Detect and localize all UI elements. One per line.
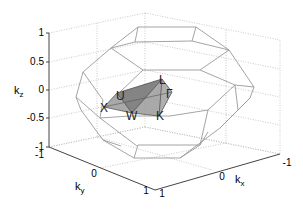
x-tick: 1	[159, 188, 165, 199]
x-tick: 0	[219, 171, 225, 182]
z-axis-label: kz	[14, 84, 24, 99]
point-label-U: U	[116, 89, 125, 103]
z-tick: 0.5	[30, 56, 44, 67]
point-label-L: L	[159, 73, 166, 87]
y-tick: 0	[91, 168, 97, 179]
brillouin-zone-plot: 1 0.5 0 -0.5 -1 -1 0 1 1 0 -1 kz ky kx	[0, 0, 303, 212]
x-axis-label: kx	[235, 173, 245, 188]
point-label-W: W	[126, 109, 138, 123]
z-tick: 1	[38, 27, 44, 38]
point-label-X: X	[100, 101, 108, 115]
y-axis-label: ky	[75, 180, 85, 195]
y-tick: -1	[35, 149, 44, 160]
z-tick: -0.5	[27, 112, 45, 123]
z-tick: 0	[38, 84, 44, 95]
x-tick: -1	[283, 157, 292, 168]
point-label-gamma: Γ	[166, 87, 173, 101]
y-tick: 1	[143, 185, 149, 196]
point-label-K: K	[156, 109, 164, 123]
